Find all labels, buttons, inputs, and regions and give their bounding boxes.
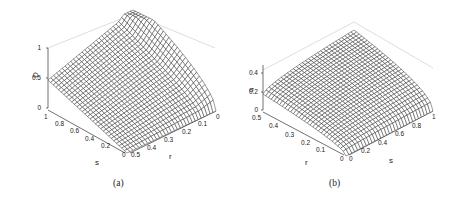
svg-text:0.6: 0.6 <box>395 130 404 137</box>
caption-a: (a) <box>113 178 124 188</box>
svg-text:0.8: 0.8 <box>55 120 64 127</box>
sigma-axis-label: σ <box>249 85 254 94</box>
svg-text:0: 0 <box>349 155 353 162</box>
svg-text:0.1: 0.1 <box>316 146 325 153</box>
r-axis-label: r <box>169 152 172 161</box>
surface-plot-a: 1 0.5 0 D 1 0.8 0.6 0.4 0.2 0 s 0.5 0.4 … <box>0 0 227 180</box>
svg-text:1: 1 <box>44 113 48 120</box>
svg-text:0.6: 0.6 <box>70 127 79 134</box>
svg-text:0.2: 0.2 <box>301 139 310 146</box>
surface-plot-b: 0.4 0.2 0 σ 0.5 0.4 0.3 0.2 0.1 0 r 0 0.… <box>227 0 454 180</box>
z-axis-label: D <box>31 72 40 78</box>
r-axis-label-b: r <box>305 158 308 167</box>
svg-text:0.4: 0.4 <box>147 144 156 151</box>
svg-text:0.2: 0.2 <box>101 142 110 149</box>
svg-text:0.8: 0.8 <box>412 122 421 129</box>
svg-text:1: 1 <box>432 113 436 120</box>
svg-text:0.4: 0.4 <box>249 69 258 76</box>
svg-text:0: 0 <box>254 106 258 113</box>
svg-text:0.1: 0.1 <box>198 120 207 127</box>
surface-mesh-b: 0.4 0.2 0 σ 0.5 0.4 0.3 0.2 0.1 0 r 0 0.… <box>227 0 454 180</box>
s-axis-label-b: s <box>389 156 393 165</box>
svg-text:0: 0 <box>340 155 344 162</box>
caption-b: (b) <box>329 178 340 188</box>
svg-text:1: 1 <box>37 44 41 51</box>
svg-text:0.4: 0.4 <box>378 139 387 146</box>
svg-text:0.3: 0.3 <box>285 131 294 138</box>
svg-text:0.5: 0.5 <box>131 151 140 158</box>
svg-text:0: 0 <box>122 151 126 158</box>
s-axis-label: s <box>95 158 99 167</box>
svg-text:0.3: 0.3 <box>164 136 173 143</box>
svg-text:0: 0 <box>216 113 220 120</box>
surface-mesh-a: 1 0.5 0 D 1 0.8 0.6 0.4 0.2 0 s 0.5 0.4 … <box>0 0 227 180</box>
svg-text:0.5: 0.5 <box>252 114 261 121</box>
svg-text:0.4: 0.4 <box>269 122 278 129</box>
svg-text:0: 0 <box>37 104 41 111</box>
svg-text:0.2: 0.2 <box>182 128 191 135</box>
svg-text:0.4: 0.4 <box>85 135 94 142</box>
svg-text:0.2: 0.2 <box>361 147 370 154</box>
